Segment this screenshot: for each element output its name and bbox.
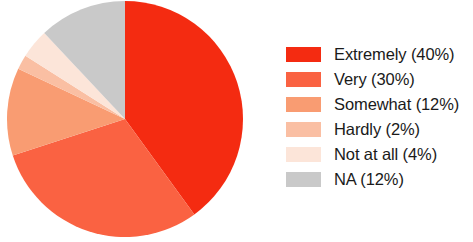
legend-label-very: Very (30%) bbox=[334, 71, 415, 88]
legend-swatch-extremely bbox=[286, 47, 321, 62]
legend-label-not-at-all: Not at all (4%) bbox=[334, 146, 437, 163]
legend-item-hardly: Hardly (2%) bbox=[286, 117, 472, 142]
legend-item-extremely: Extremely (40%) bbox=[286, 42, 472, 67]
legend-swatch-hardly bbox=[286, 122, 321, 137]
legend-label-na: NA (12%) bbox=[334, 171, 404, 188]
pie-plot-area bbox=[0, 0, 265, 242]
legend-item-na: NA (12%) bbox=[286, 167, 472, 192]
legend-swatch-somewhat bbox=[286, 97, 321, 112]
legend-label-somewhat: Somewhat (12%) bbox=[334, 96, 459, 113]
pie-chart-figure: Extremely (40%) Very (30%) Somewhat (12%… bbox=[0, 0, 473, 242]
legend-item-somewhat: Somewhat (12%) bbox=[286, 92, 472, 117]
legend-swatch-very bbox=[286, 72, 321, 87]
chart-legend: Extremely (40%) Very (30%) Somewhat (12%… bbox=[286, 42, 472, 192]
legend-swatch-not-at-all bbox=[286, 147, 321, 162]
legend-label-hardly: Hardly (2%) bbox=[334, 121, 420, 138]
legend-item-very: Very (30%) bbox=[286, 67, 472, 92]
legend-item-not-at-all: Not at all (4%) bbox=[286, 142, 472, 167]
pie-slices-group bbox=[0, 0, 265, 242]
legend-label-extremely: Extremely (40%) bbox=[334, 46, 454, 63]
legend-swatch-na bbox=[286, 172, 321, 187]
